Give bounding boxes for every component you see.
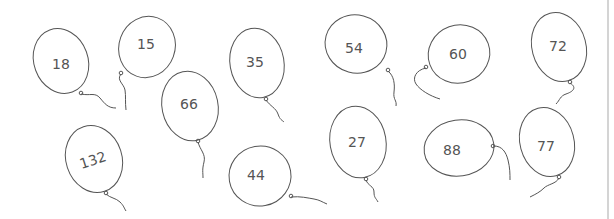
- balloon-canvas: 18 15 66 35 54 60 72 132 44 27 88 77: [0, 0, 614, 219]
- balloon-label-72: 72: [549, 38, 567, 54]
- right-border-divider: [607, 0, 609, 219]
- balloon-27[interactable]: [324, 102, 392, 202]
- balloon-label-66: 66: [180, 96, 198, 112]
- balloon-label-88: 88: [443, 142, 461, 158]
- balloon-54[interactable]: [319, 8, 397, 106]
- balloon-label-77: 77: [537, 138, 555, 154]
- balloon-label-27: 27: [348, 134, 366, 150]
- balloon-66[interactable]: [155, 66, 224, 178]
- balloon-72[interactable]: [524, 6, 594, 104]
- balloon-15[interactable]: [110, 8, 184, 110]
- balloon-label-60: 60: [449, 46, 467, 62]
- balloon-44[interactable]: [224, 141, 327, 211]
- balloon-18[interactable]: [24, 21, 116, 108]
- balloon-35[interactable]: [224, 24, 289, 122]
- balloon-88[interactable]: [420, 115, 510, 180]
- balloon-label-54: 54: [345, 40, 363, 56]
- balloon-label-35: 35: [246, 54, 264, 70]
- balloon-label-18: 18: [52, 56, 70, 72]
- balloon-label-15: 15: [137, 36, 155, 52]
- balloon-label-44: 44: [247, 167, 265, 183]
